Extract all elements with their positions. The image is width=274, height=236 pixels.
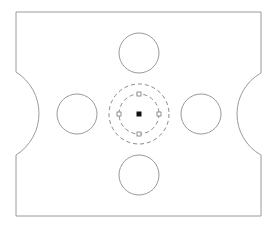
quadrant-grip-handle-0[interactable] <box>137 92 141 96</box>
cad-drawing-canvas[interactable] <box>0 0 274 236</box>
center-grip-handle[interactable] <box>137 112 142 117</box>
drawing-svg[interactable] <box>0 0 274 236</box>
quadrant-grip-handle-2[interactable] <box>137 132 141 136</box>
selected-circle-group[interactable] <box>109 84 169 144</box>
quadrant-grip-handle-3[interactable] <box>117 112 121 116</box>
hole-bottom-circle[interactable] <box>119 155 159 195</box>
hole-top-circle[interactable] <box>119 33 159 73</box>
hole-right-circle[interactable] <box>181 94 221 134</box>
quadrant-grip-handle-1[interactable] <box>157 112 161 116</box>
hole-left-circle[interactable] <box>57 94 97 134</box>
